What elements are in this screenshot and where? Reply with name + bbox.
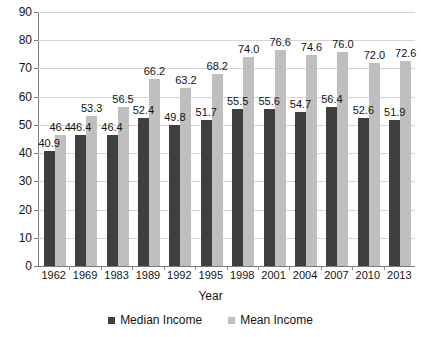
x-axis-tick — [352, 266, 353, 270]
x-axis-tick-label: 1995 — [195, 269, 226, 282]
bar-median-income[interactable] — [264, 109, 275, 266]
y-axis-tick-label: 80 — [4, 34, 32, 46]
x-axis-tick — [164, 266, 165, 270]
x-axis-tick — [321, 266, 322, 270]
bar-mean-income[interactable] — [55, 135, 66, 266]
bar-series-layer: 40.946.446.453.346.456.552.466.249.863.2… — [38, 12, 415, 267]
bar-value-label-median: 51.9 — [383, 107, 406, 118]
y-axis-tick-label: 50 — [4, 119, 32, 131]
x-axis-tick-label: 1983 — [101, 269, 132, 282]
bar-value-label-mean: 66.2 — [143, 66, 166, 77]
x-axis-tick — [384, 266, 385, 270]
y-axis-tick-label: 40 — [4, 147, 32, 159]
bar-value-label-median: 51.7 — [195, 107, 218, 118]
x-axis-tick-label: 2001 — [258, 269, 289, 282]
bar-group — [107, 12, 129, 266]
bar-mean-income[interactable] — [337, 52, 348, 266]
bar-median-income[interactable] — [169, 125, 180, 266]
bar-mean-income[interactable] — [306, 55, 317, 266]
bar-value-label-mean: 76.6 — [269, 37, 292, 48]
x-axis-tick — [101, 266, 102, 270]
bar-value-label-median: 46.4 — [69, 122, 92, 133]
bar-group — [201, 12, 223, 266]
y-axis-tick-label: 0 — [4, 260, 32, 272]
x-axis-tick — [195, 266, 196, 270]
x-axis-tick — [132, 266, 133, 270]
x-axis-tick-label: 2010 — [352, 269, 383, 282]
legend-label-mean: Mean Income — [240, 314, 313, 326]
legend-item-mean[interactable]: Mean Income — [228, 314, 313, 326]
bar-value-label-median: 46.4 — [101, 122, 124, 133]
bar-group — [75, 12, 97, 266]
bar-value-label-mean: 72.0 — [363, 50, 386, 61]
x-axis-tick-labels: 1962196919831989199219951998200120042007… — [38, 269, 415, 285]
y-axis-tick-label: 90 — [4, 6, 32, 18]
bar-mean-income[interactable] — [86, 116, 97, 266]
bar-value-label-median: 56.4 — [320, 94, 343, 105]
bar-value-label-median: 40.9 — [38, 138, 61, 149]
y-axis-tick-label: 60 — [4, 91, 32, 103]
x-axis-tick-label: 1989 — [132, 269, 163, 282]
bar-median-income[interactable] — [107, 135, 118, 266]
bar-median-income[interactable] — [358, 118, 369, 266]
bar-mean-income[interactable] — [212, 74, 223, 266]
bar-value-label-median: 55.5 — [226, 96, 249, 107]
y-axis-tick-label: 30 — [4, 175, 32, 187]
x-axis-title: Year — [0, 289, 421, 303]
bar-mean-income[interactable] — [369, 63, 380, 266]
bar-group — [138, 12, 160, 266]
bar-group — [264, 12, 286, 266]
bar-mean-income[interactable] — [275, 50, 286, 266]
bar-value-label-mean: 74.0 — [237, 44, 260, 55]
bar-value-label-median: 52.6 — [352, 105, 375, 116]
bar-chart: 0102030405060708090 40.946.446.453.346.4… — [0, 0, 421, 337]
x-axis-tick — [289, 266, 290, 270]
bar-value-label-median: 54.7 — [289, 99, 312, 110]
x-axis-tick-label: 2007 — [321, 269, 352, 282]
legend-swatch-mean-icon — [228, 317, 235, 324]
bar-median-income[interactable] — [75, 135, 86, 266]
x-axis-tick-label: 1969 — [69, 269, 100, 282]
bar-median-income[interactable] — [138, 118, 149, 266]
x-axis-tick — [69, 266, 70, 270]
bar-value-label-mean: 76.0 — [331, 39, 354, 50]
y-axis-tick-label: 70 — [4, 62, 32, 74]
x-axis-tick-label: 1962 — [38, 269, 69, 282]
bar-median-income[interactable] — [326, 107, 337, 266]
bar-median-income[interactable] — [389, 120, 400, 266]
x-axis-tick — [227, 266, 228, 270]
bar-mean-income[interactable] — [243, 57, 254, 266]
bar-median-income[interactable] — [201, 120, 212, 266]
bar-value-label-mean: 53.3 — [80, 103, 103, 114]
bar-value-label-median: 49.8 — [163, 112, 186, 123]
bar-median-income[interactable] — [232, 109, 243, 266]
bar-value-label-median: 55.6 — [258, 96, 281, 107]
bar-mean-income[interactable] — [400, 61, 411, 266]
legend-item-median[interactable]: Median Income — [108, 314, 202, 326]
bar-value-label-mean: 74.6 — [300, 42, 323, 53]
x-axis-tick-label: 2013 — [384, 269, 415, 282]
legend-swatch-median-icon — [108, 317, 115, 324]
bar-group — [169, 12, 191, 266]
x-axis-tick-label: 2004 — [289, 269, 320, 282]
x-axis-tick-label: 1992 — [164, 269, 195, 282]
bar-value-label-mean: 72.6 — [394, 48, 417, 59]
y-axis-tick-label: 10 — [4, 232, 32, 244]
x-axis-tick-label: 1998 — [227, 269, 258, 282]
bar-value-label-mean: 68.2 — [206, 61, 229, 72]
bar-value-label-mean: 63.2 — [174, 75, 197, 86]
x-axis-tick — [258, 266, 259, 270]
chart-legend: Median Income Mean Income — [0, 314, 421, 326]
bar-value-label-median: 52.4 — [132, 105, 155, 116]
bar-median-income[interactable] — [44, 151, 55, 266]
legend-label-median: Median Income — [120, 314, 202, 326]
bar-value-label-mean: 56.5 — [112, 94, 135, 105]
bar-median-income[interactable] — [295, 112, 306, 266]
bar-group — [326, 12, 348, 266]
y-axis-tick-label: 20 — [4, 204, 32, 216]
